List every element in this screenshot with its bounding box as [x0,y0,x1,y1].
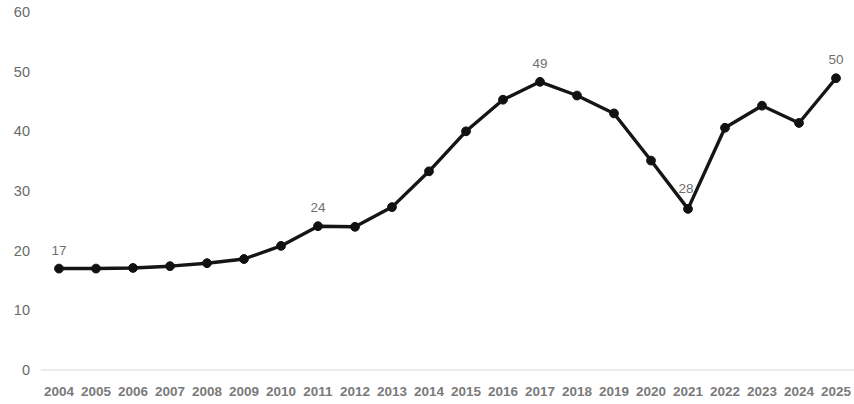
x-tick-label: 2005 [81,384,112,399]
data-point-marker [129,264,138,273]
y-tick-label: 50 [14,64,30,80]
series-line [59,78,836,268]
data-point-label: 49 [532,56,547,71]
data-point-marker [203,259,212,268]
x-tick-label: 2013 [377,384,408,399]
data-series [59,78,836,268]
x-tick-label: 2007 [155,384,185,399]
x-tick-label: 2009 [229,384,259,399]
x-tick-label: 2019 [599,384,629,399]
line-chart: 6050403020100 20042005200620072008200920… [0,0,854,404]
data-point-marker [573,91,582,100]
data-point-marker [277,241,286,250]
x-tick-label: 2012 [340,384,370,399]
data-point-marker [499,95,508,104]
data-point-marker [610,109,619,118]
x-tick-label: 2023 [747,384,778,399]
chart-canvas: 6050403020100 20042005200620072008200920… [0,0,854,404]
data-point-marker [166,262,175,271]
data-point-marker [758,101,767,110]
x-tick-label: 2010 [266,384,296,399]
y-tick-label: 40 [14,123,30,139]
x-tick-label: 2021 [673,384,704,399]
data-point-marker [388,203,397,212]
x-tick-label: 2006 [118,384,149,399]
x-tick-label: 2015 [451,384,482,399]
data-point-label: 28 [678,181,693,196]
data-labels: 1724492850 [51,52,843,257]
data-point-marker [721,123,730,132]
x-tick-label: 2004 [44,384,75,399]
x-axis: 2004200520062007200820092010201120122013… [44,384,852,399]
y-tick-label: 0 [22,362,30,378]
data-point-marker [647,156,656,165]
data-point-label: 50 [828,52,843,67]
data-point-marker [795,119,804,128]
data-point-marker [425,167,434,176]
x-tick-label: 2022 [710,384,740,399]
data-point-marker [536,77,545,86]
y-tick-label: 10 [14,302,30,318]
data-point-label: 24 [310,200,326,215]
data-point-marker [240,255,249,264]
data-point-marker [314,222,323,231]
data-point-label: 17 [51,243,66,258]
y-tick-label: 30 [14,183,30,199]
x-tick-label: 2014 [414,384,445,399]
y-tick-label: 60 [14,4,30,20]
data-point-marker [832,74,841,83]
x-tick-label: 2008 [192,384,223,399]
data-markers [55,74,841,273]
x-tick-label: 2020 [636,384,666,399]
x-tick-label: 2017 [525,384,555,399]
x-tick-label: 2018 [562,384,593,399]
y-axis: 6050403020100 [14,4,30,378]
y-tick-label: 20 [14,243,30,259]
data-point-marker [92,264,101,273]
data-point-marker [684,205,693,214]
x-tick-label: 2025 [821,384,852,399]
x-tick-label: 2011 [303,384,333,399]
x-tick-label: 2016 [488,384,519,399]
data-point-marker [55,264,64,273]
x-tick-label: 2024 [784,384,815,399]
data-point-marker [351,222,360,231]
data-point-marker [462,127,471,136]
